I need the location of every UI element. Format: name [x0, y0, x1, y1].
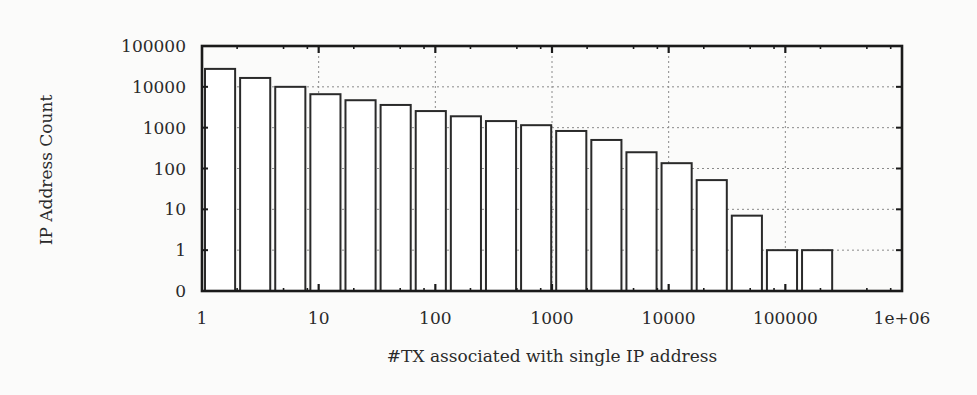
x-tick-label: 1: [197, 308, 208, 328]
bar-series: [205, 69, 832, 291]
y-tick-label: 10: [164, 199, 186, 219]
histogram-bar: [767, 250, 797, 291]
y-axis-title: IP Address Count: [36, 95, 56, 246]
histogram-bar: [275, 87, 305, 291]
histogram-bar: [310, 94, 340, 291]
histogram-bar: [240, 78, 270, 291]
x-tick-label: 1000: [530, 308, 573, 328]
histogram-chart: 1101001000100001000001e+06 0110100100010…: [0, 0, 977, 395]
histogram-bar: [381, 105, 411, 291]
x-axis-title: #TX associated with single IP address: [387, 346, 717, 366]
y-tick-label: 100: [154, 159, 186, 179]
histogram-bar: [732, 216, 762, 291]
x-tick-label: 100: [419, 308, 451, 328]
histogram-bar: [626, 152, 656, 291]
y-axis-tick-labels: 0110100100010000100000: [121, 36, 186, 301]
histogram-bar: [451, 116, 481, 291]
x-tick-label: 1e+06: [874, 308, 931, 328]
histogram-bar: [802, 250, 832, 291]
histogram-bar: [697, 180, 727, 291]
histogram-bar: [591, 140, 621, 291]
x-tick-label: 100000: [753, 308, 818, 328]
x-tick-label: 10: [308, 308, 330, 328]
x-axis-tick-labels: 1101001000100001000001e+06: [197, 308, 931, 328]
y-tick-label: 1: [175, 240, 186, 260]
histogram-bar: [521, 125, 551, 291]
histogram-bar: [416, 111, 446, 291]
histogram-bar: [205, 69, 235, 291]
histogram-bar: [662, 163, 692, 291]
y-tick-label: 0: [175, 281, 186, 301]
y-tick-label: 100000: [121, 36, 186, 56]
y-tick-label: 10000: [132, 77, 186, 97]
x-tick-label: 10000: [642, 308, 696, 328]
histogram-bar: [345, 100, 375, 291]
histogram-bar: [486, 121, 516, 291]
y-tick-label: 1000: [143, 118, 186, 138]
histogram-bar: [556, 131, 586, 291]
